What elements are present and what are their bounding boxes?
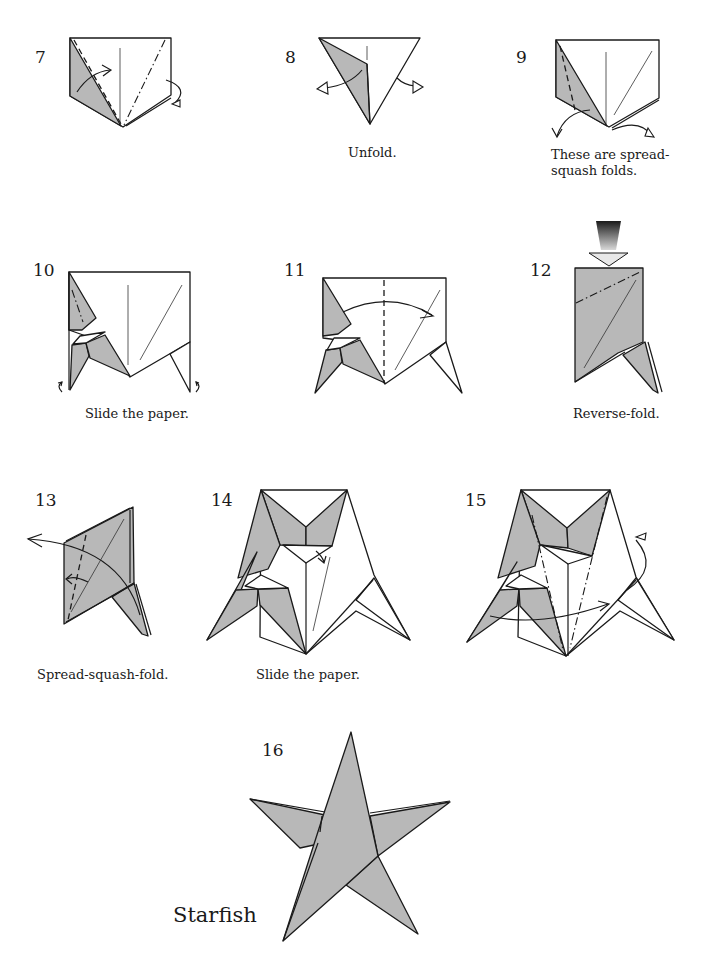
step-12-diagram xyxy=(575,221,662,393)
step-14-diagram xyxy=(207,490,410,654)
diagram-canvas xyxy=(0,0,707,975)
step-7-diagram xyxy=(70,38,181,127)
step-9-diagram xyxy=(552,40,659,137)
step-15-diagram xyxy=(467,490,674,656)
step-16-diagram xyxy=(250,732,450,941)
step-13-diagram xyxy=(28,507,151,636)
step-8-diagram xyxy=(317,38,423,124)
step-10-diagram xyxy=(58,272,199,392)
step-11-diagram xyxy=(315,278,462,393)
